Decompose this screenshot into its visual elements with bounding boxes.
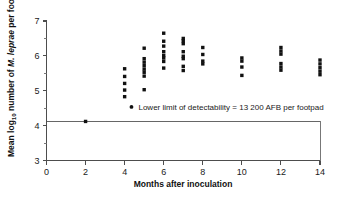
x-tick-label-0: 0 — [44, 167, 49, 177]
data-point — [123, 75, 126, 78]
data-point — [279, 46, 282, 49]
chart-canvas: 34567 02468101214 Lower limit of detecta… — [0, 0, 338, 198]
data-point — [279, 49, 282, 52]
data-point — [142, 88, 145, 91]
y-tick-group — [43, 21, 47, 161]
data-point — [240, 65, 243, 68]
x-tick-label-14: 14 — [315, 167, 325, 177]
data-point — [240, 56, 243, 59]
detectability-limit-group — [47, 121, 321, 160]
data-point — [142, 47, 145, 50]
data-point — [279, 68, 282, 71]
data-point — [142, 74, 145, 77]
x-tick-label-10: 10 — [237, 167, 247, 177]
scatter-chart-figure: 34567 02468101214 Lower limit of detecta… — [0, 0, 338, 198]
data-point — [318, 58, 321, 61]
data-point — [201, 53, 204, 56]
data-point — [162, 50, 165, 53]
x-tick-label-4: 4 — [122, 167, 127, 177]
data-point — [162, 66, 165, 69]
y-tick-label-3: 3 — [34, 156, 39, 166]
data-point — [162, 32, 165, 35]
data-point — [318, 73, 321, 76]
x-tick-group — [47, 161, 321, 165]
y-tick-label-5: 5 — [34, 86, 39, 96]
y-tick-label-6: 6 — [34, 51, 39, 61]
data-point — [279, 52, 282, 55]
data-point — [182, 69, 185, 72]
x-tick-label-6: 6 — [161, 167, 166, 177]
annotation-group: Lower limit of detectability = 13 200 AF… — [130, 103, 324, 112]
data-point — [240, 74, 243, 77]
data-point — [142, 67, 145, 70]
data-point — [201, 62, 204, 65]
y-tick-label-4: 4 — [34, 121, 39, 131]
data-point — [123, 88, 126, 91]
y-tick-label-group: 34567 — [34, 16, 39, 166]
data-point — [182, 50, 185, 53]
data-point — [318, 70, 321, 73]
data-point — [240, 59, 243, 62]
data-point — [318, 62, 321, 65]
data-point — [201, 46, 204, 49]
data-point — [279, 62, 282, 65]
data-point — [162, 44, 165, 47]
x-tick-label-8: 8 — [200, 167, 205, 177]
x-axis-title: Months after inoculation — [134, 179, 233, 189]
data-point — [162, 56, 165, 59]
x-tick-label-group: 02468101214 — [44, 167, 325, 177]
data-point — [162, 60, 165, 63]
y-tick-label-7: 7 — [34, 16, 39, 26]
data-point — [279, 65, 282, 68]
x-tick-label-12: 12 — [276, 167, 286, 177]
data-point — [123, 67, 126, 70]
data-point — [318, 66, 321, 69]
data-point — [182, 57, 185, 60]
data-point — [123, 82, 126, 85]
data-point — [142, 64, 145, 67]
data-point — [142, 60, 145, 63]
data-point — [123, 95, 126, 98]
x-tick-label-2: 2 — [83, 167, 88, 177]
data-point — [84, 120, 87, 123]
annotation-label: Lower limit of detectability = 13 200 AF… — [138, 103, 323, 112]
data-point — [162, 40, 165, 43]
data-point — [182, 65, 185, 68]
y-axis-title: Mean log10 number of M. leprae per footp… — [6, 0, 17, 157]
data-point — [182, 42, 185, 45]
data-point — [142, 57, 145, 60]
annotation-bullet-icon — [130, 105, 134, 109]
data-point — [142, 71, 145, 74]
